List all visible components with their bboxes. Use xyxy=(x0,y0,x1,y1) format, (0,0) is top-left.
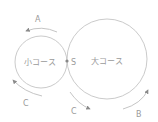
start-point-label: S xyxy=(71,58,76,67)
arrow-a xyxy=(26,28,57,32)
arrow-c-left-label: C xyxy=(23,99,29,108)
start-point-dot xyxy=(65,59,68,62)
arrow-b xyxy=(123,90,148,109)
arrow-c-right-label: C xyxy=(71,107,77,116)
small-course-label: 小コース xyxy=(24,58,56,67)
course-diagram: 小コース 大コース S A C C B xyxy=(0,0,158,122)
large-course-label: 大コース xyxy=(91,56,123,66)
arrow-b-label: B xyxy=(136,110,142,119)
arrow-a-label: A xyxy=(35,15,41,24)
